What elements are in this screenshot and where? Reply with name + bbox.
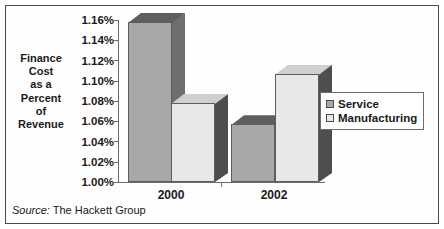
x-axis-category-2002: 2002 xyxy=(234,188,314,202)
y-axis-tick-label: 1.10% xyxy=(81,75,114,87)
chart-figure: Finance Cost as a Percent of Revenue 1.1… xyxy=(0,0,444,229)
legend-item-manufacturing[interactable]: Manufacturing xyxy=(326,111,417,125)
source-note: Source: The Hackett Group xyxy=(12,204,146,216)
bar-front-face xyxy=(231,124,275,182)
x-axis-category-2000: 2000 xyxy=(131,188,211,202)
legend-swatch-icon xyxy=(326,100,334,108)
y-axis-title-line: Finance xyxy=(10,52,72,65)
y-axis-title-line: of xyxy=(10,105,72,118)
y-axis-tick-label: 1.08% xyxy=(81,95,114,107)
y-axis-tick-label: 1.06% xyxy=(81,115,114,127)
y-axis-title-line: Revenue xyxy=(10,118,72,131)
legend-swatch-icon xyxy=(326,114,334,122)
source-text: The Hackett Group xyxy=(50,204,146,216)
y-axis-tick-label: 1.00% xyxy=(81,176,114,188)
source-label: Source: xyxy=(12,204,50,216)
bar-front-face xyxy=(171,103,215,182)
y-axis-tick-labels: 1.16%1.14%1.12%1.10%1.08%1.06%1.04%1.02%… xyxy=(72,14,118,190)
y-axis-title-line: Percent xyxy=(10,92,72,105)
y-axis-title-line: Cost xyxy=(10,65,72,78)
y-axis-tick-label: 1.04% xyxy=(81,136,114,148)
y-axis-tick-label: 1.14% xyxy=(81,34,114,46)
bar-manufacturing-2000 xyxy=(171,94,228,182)
legend-label: Service xyxy=(338,98,379,110)
bar-front-face xyxy=(275,74,319,182)
plot-area xyxy=(118,14,333,189)
y-axis-title: Finance Cost as a Percent of Revenue xyxy=(10,52,72,131)
y-axis-tick-label: 1.12% xyxy=(81,55,114,67)
legend-item-service[interactable]: Service xyxy=(326,97,417,111)
y-axis-tick-label: 1.02% xyxy=(81,156,114,168)
bar-side-face xyxy=(215,94,228,182)
y-axis-title-line: as a xyxy=(10,78,72,91)
bar-front-face xyxy=(128,22,172,182)
chart-legend: ServiceManufacturing xyxy=(320,92,424,130)
y-axis-tick-label: 1.16% xyxy=(81,14,114,26)
legend-label: Manufacturing xyxy=(338,112,417,124)
